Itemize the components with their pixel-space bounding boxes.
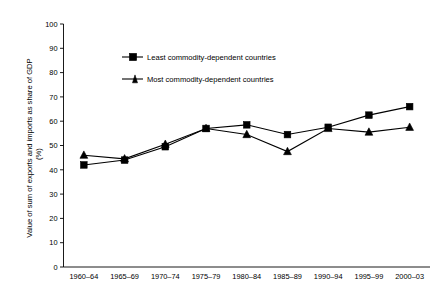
y-tick-label-0: 0	[53, 263, 57, 272]
x-tick-label-3: 1975–79	[192, 272, 221, 281]
y-tick-label-80: 80	[49, 68, 57, 77]
data-point-0-4	[243, 122, 250, 129]
x-tick-label-7: 1995–99	[355, 272, 384, 281]
legend-entry-0: Least commodity-dependent countries	[122, 53, 276, 62]
y-axis-title-line1: Value of sum of exports and imports as s…	[25, 58, 34, 237]
line-chart: Value of sum of exports and imports as s…	[0, 0, 448, 304]
y-tick-label-50: 50	[49, 141, 57, 150]
data-point-1-8	[406, 123, 414, 130]
legend-entry-1: Most commodity-dependent countries	[122, 75, 274, 84]
y-tick-label-70: 70	[49, 93, 57, 102]
data-point-0-7	[366, 112, 373, 119]
legend-label-0: Least commodity-dependent countries	[147, 53, 276, 62]
data-point-0-0	[81, 162, 88, 169]
y-tick-label-90: 90	[49, 44, 57, 53]
y-tick-label-100: 100	[45, 20, 57, 29]
x-tick-label-8: 2000–03	[395, 272, 424, 281]
x-tick-label-2: 1970–74	[151, 272, 180, 281]
x-tick-label-1: 1965–69	[110, 272, 139, 281]
x-tick-label-0: 1960–64	[69, 272, 98, 281]
x-tick-label-5: 1985–89	[273, 272, 302, 281]
y-tick-label-40: 40	[49, 166, 57, 175]
y-axis-ticks	[60, 24, 64, 267]
square-marker-icon	[129, 53, 136, 60]
y-axis-title-line2: (%)	[34, 148, 43, 160]
y-axis-tick-labels: 0102030405060708090100	[45, 20, 57, 272]
x-axis-tick-labels: 1960–641965–691970–741975–791980–841985–…	[69, 272, 424, 281]
legend-label-1: Most commodity-dependent countries	[147, 75, 274, 84]
data-point-1-0	[80, 151, 88, 158]
legend: Least commodity-dependent countries Most…	[122, 53, 276, 84]
x-tick-label-6: 1990–94	[314, 272, 343, 281]
chart-container: Value of sum of exports and imports as s…	[0, 0, 448, 304]
data-point-0-8	[406, 103, 413, 110]
y-tick-label-60: 60	[49, 117, 57, 126]
y-tick-label-10: 10	[49, 238, 57, 247]
y-tick-label-20: 20	[49, 214, 57, 223]
x-tick-label-4: 1980–84	[232, 272, 261, 281]
data-point-0-5	[284, 131, 291, 138]
y-tick-label-30: 30	[49, 190, 57, 199]
